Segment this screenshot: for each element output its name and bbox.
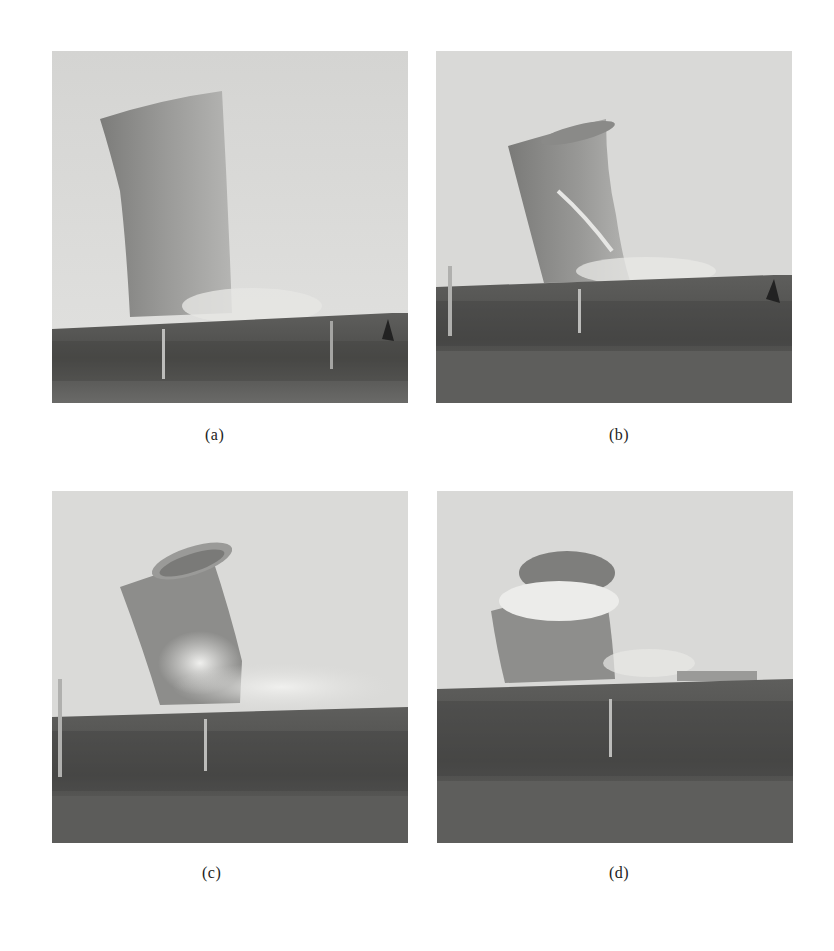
photo-panel-a bbox=[52, 51, 408, 403]
photo-panel-c bbox=[52, 491, 408, 843]
figure-caption-d: (d) bbox=[609, 864, 629, 882]
figure-caption-b: (b) bbox=[609, 426, 629, 444]
figure-caption-a: (a) bbox=[205, 426, 224, 444]
photo-panel-b bbox=[436, 51, 792, 403]
photo-panel-d bbox=[437, 491, 793, 843]
cooling-tower-photo-b bbox=[436, 51, 792, 403]
cooling-tower-photo-c bbox=[52, 491, 408, 843]
figure-caption-c: (c) bbox=[202, 864, 221, 882]
cooling-tower-photo-d bbox=[437, 491, 793, 843]
cooling-tower-photo-a bbox=[52, 51, 408, 403]
